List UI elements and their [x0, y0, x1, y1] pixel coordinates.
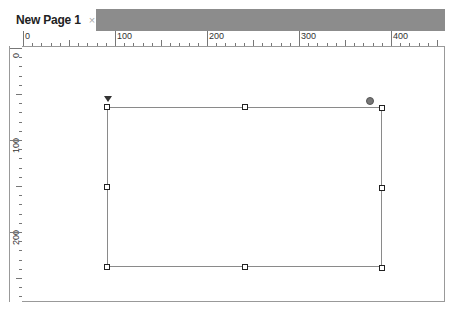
ruler-tick: [10, 232, 22, 233]
ruler-tick: [382, 43, 383, 46]
tab-bar: New Page 1 ×: [0, 0, 459, 31]
tab-new-page-1[interactable]: New Page 1 ×: [9, 9, 96, 31]
ruler-tick: [428, 43, 429, 46]
selected-rectangle[interactable]: [107, 107, 382, 267]
ruler-tick: [373, 43, 374, 46]
ruler-tick: [179, 43, 180, 46]
ruler-tick: [60, 43, 61, 46]
ruler-tick: [143, 43, 144, 46]
ruler-tick: [363, 43, 364, 46]
tab-bar-empty-area: [96, 9, 445, 31]
resize-handle-bottom[interactable]: [242, 264, 248, 270]
ruler-tick: [23, 31, 24, 46]
ruler-tick: [400, 43, 401, 46]
ruler-tick: [244, 43, 245, 46]
ruler-tick: [327, 43, 328, 46]
ruler-tick: [409, 43, 410, 46]
resize-handle-left[interactable]: [104, 184, 110, 190]
ruler-tick: [87, 43, 88, 46]
ruler-tick: [225, 43, 226, 46]
ruler-tick: [437, 40, 438, 46]
ruler-tick: [262, 43, 263, 46]
resize-handle-top-right[interactable]: [379, 105, 385, 111]
ruler-tick: [391, 31, 392, 46]
ruler-tick: [290, 43, 291, 46]
ruler-tick: [345, 40, 346, 46]
close-icon[interactable]: ×: [89, 14, 95, 26]
ruler-label-0: 0: [25, 31, 30, 41]
ruler-tick: [10, 48, 22, 49]
ruler-tick: [299, 31, 300, 46]
ruler-label-100: 100: [117, 31, 132, 41]
ruler-tick: [419, 43, 420, 46]
vertical-ruler: 0 100 200: [9, 46, 23, 302]
ruler-tick: [271, 43, 272, 46]
ruler-tick: [216, 43, 217, 46]
tab-label: New Page 1: [16, 13, 81, 27]
ruler-tick: [78, 43, 79, 46]
ruler-tick: [336, 43, 337, 46]
ruler-tick: [152, 43, 153, 46]
ruler-tick: [10, 140, 22, 141]
ruler-tick: [354, 43, 355, 46]
resize-handle-right[interactable]: [379, 185, 385, 191]
ruler-tick: [207, 31, 208, 46]
resize-handle-bottom-right[interactable]: [379, 265, 385, 271]
ruler-tick: [170, 43, 171, 46]
ruler-tick: [308, 43, 309, 46]
ruler-tick: [235, 43, 236, 46]
ruler-tick: [41, 43, 42, 46]
ruler-tick: [253, 40, 254, 46]
resize-handle-top-left[interactable]: [104, 104, 110, 110]
ruler-label-300: 300: [301, 31, 316, 41]
ruler-tick: [106, 43, 107, 46]
ruler-tick: [69, 40, 70, 46]
ruler-tick: [198, 43, 199, 46]
resize-handle-bottom-left[interactable]: [104, 264, 110, 270]
ruler-tick: [115, 31, 116, 46]
resize-handle-top[interactable]: [242, 104, 248, 110]
horizontal-ruler: 0 100 200 300 400: [9, 31, 445, 47]
ruler-tick: [51, 43, 52, 46]
ruler-tick: [161, 40, 162, 46]
ruler-label-200: 200: [209, 31, 224, 41]
ruler-tick: [317, 43, 318, 46]
ruler-label-400: 400: [393, 31, 408, 41]
rotation-handle[interactable]: [366, 97, 374, 105]
ruler-tick: [124, 43, 125, 46]
ruler-tick: [281, 43, 282, 46]
ruler-tick: [133, 43, 134, 46]
ruler-tick: [97, 43, 98, 46]
anchor-marker-icon[interactable]: [104, 96, 112, 102]
ruler-tick: [189, 43, 190, 46]
ruler-tick: [32, 43, 33, 46]
